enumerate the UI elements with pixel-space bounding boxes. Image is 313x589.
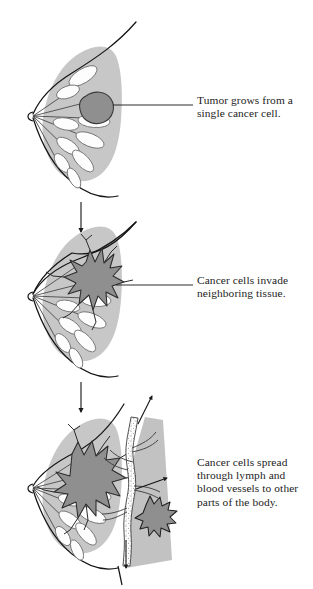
caption-panel-2: Cancer cells invade neighboring tissue. xyxy=(197,274,313,300)
nipple-3 xyxy=(28,484,33,493)
panel-3-illustration xyxy=(28,396,177,585)
chest-wall-line-3 xyxy=(118,566,122,585)
panel-1-illustration xyxy=(28,22,193,197)
caption-panel-3: Cancer cells spread through lymph and bl… xyxy=(197,456,313,509)
tumor-round-1 xyxy=(80,92,114,123)
nipple-1 xyxy=(28,112,33,121)
caption-panel-1: Tumor grows from a single cancer cell. xyxy=(197,94,313,120)
breast-cancer-progression-figure: Tumor grows from a single cancer cell. C… xyxy=(0,0,313,589)
nipple-2 xyxy=(28,292,33,301)
panel-2-illustration xyxy=(28,222,193,377)
